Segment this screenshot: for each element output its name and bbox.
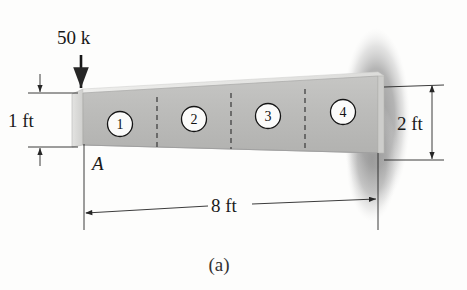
beam-left-end-face [72, 89, 83, 147]
element-marker-3: 3 [256, 104, 281, 129]
element-marker-4: 4 [331, 100, 356, 125]
element-number-label: 4 [340, 105, 347, 120]
left-depth-label: 1 ft [8, 110, 35, 131]
right-depth-label: 2 ft [397, 113, 424, 134]
diagram-canvas: 1 2 3 4 50 k 1 ft [0, 0, 467, 290]
element-marker-1: 1 [108, 112, 133, 137]
element-marker-2: 2 [182, 107, 207, 132]
beam-diagram-figure: 1 2 3 4 50 k 1 ft [0, 0, 467, 290]
beam-right-end-face [378, 76, 384, 153]
element-number-label: 2 [191, 112, 198, 127]
span-length-label: 8 ft [211, 195, 238, 216]
element-number-label: 3 [265, 109, 272, 124]
node-a-label: A [90, 153, 104, 174]
element-number-label: 1 [117, 117, 124, 132]
load-label: 50 k [57, 27, 91, 48]
figure-caption: (a) [208, 254, 229, 276]
